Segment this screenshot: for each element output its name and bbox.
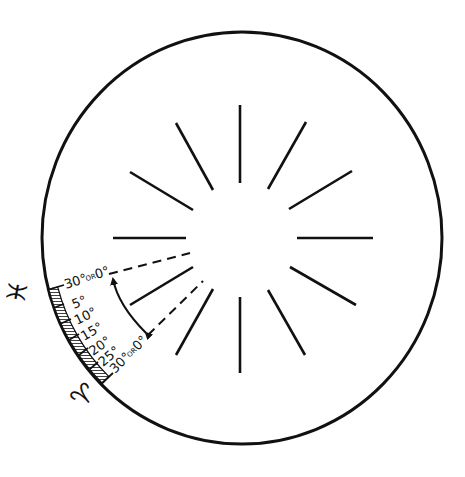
ray-ene xyxy=(289,171,352,209)
ray-wnw xyxy=(130,172,193,210)
scale-start-alt: 0° xyxy=(93,263,112,282)
curved-arrow xyxy=(113,279,146,333)
zodiac-diagram: 30° OR 0° 5° 10° 15° 20° 25° 30° OR 0° ♓… xyxy=(0,0,465,477)
ray-ese xyxy=(290,267,356,305)
pisces-sign-icon: ♓ xyxy=(0,278,34,306)
ray-nnw xyxy=(176,123,213,190)
sun-rays xyxy=(113,105,373,373)
ray-ssw xyxy=(176,289,213,355)
dashed-lines xyxy=(109,253,203,335)
ray-sse xyxy=(268,290,305,355)
aries-sign-icon: ♈ xyxy=(65,377,102,415)
scale-labels: 30° OR 0° 5° 10° 15° 20° 25° 30° OR 0° xyxy=(62,263,150,376)
dashed-line-upper xyxy=(109,253,190,274)
scale-start-main: 30° xyxy=(62,270,89,291)
ray-nne xyxy=(268,122,306,189)
